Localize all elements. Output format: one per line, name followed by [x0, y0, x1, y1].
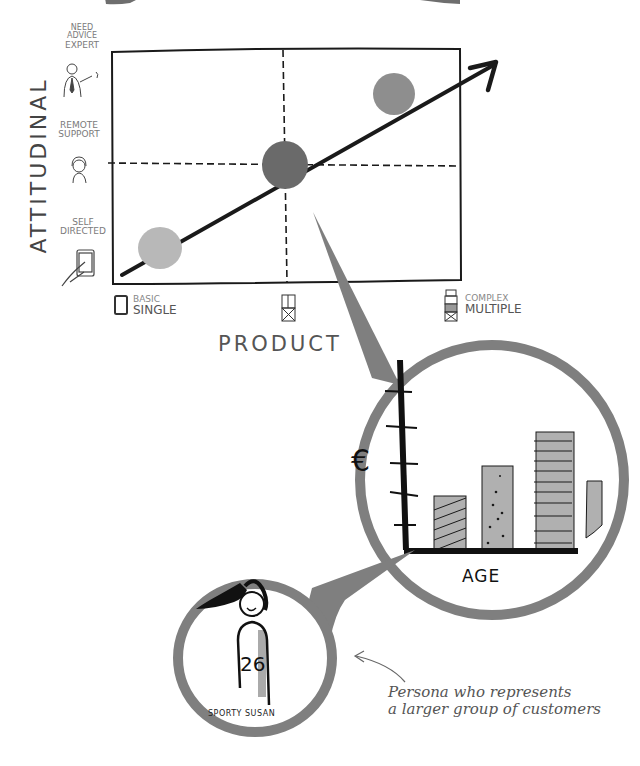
x-category-basic-line2: SINGLE: [133, 304, 177, 317]
bar-dotted: [482, 466, 513, 551]
age-axis-label: AGE: [462, 566, 500, 586]
x-category-complex-line2: MULTIPLE: [465, 303, 522, 316]
y-level-expert-label: NEED ADVICE EXPERT: [60, 24, 104, 50]
y-level-self-label: SELF DIRECTED: [58, 218, 108, 237]
persona-name: SPORTY SUSAN: [208, 709, 275, 718]
expert-person-icon: [64, 64, 98, 97]
bar-hatched: [434, 496, 466, 551]
bar-striped: [534, 432, 574, 551]
segment-blob-mid: [262, 141, 308, 189]
top-banner-right-fragment: [420, 0, 460, 4]
stacked-boxes-icon: [445, 290, 457, 321]
diagram-canvas: [0, 0, 640, 766]
top-banner-left-fragment: [105, 0, 140, 4]
double-box-icon: [282, 295, 295, 321]
caption-line1: Persona who represents: [388, 684, 601, 701]
y-level-remote-line2: SUPPORT: [54, 130, 104, 139]
caption-arrow-line: [356, 656, 405, 682]
single-box-icon: [115, 296, 127, 314]
x-category-basic: BASIC SINGLE: [133, 295, 177, 317]
headset-person-icon: [72, 157, 86, 183]
x-axis-title: PRODUCT: [218, 332, 342, 356]
persona-jersey-number: 26: [240, 652, 265, 676]
y-axis-title: ATTITUDINAL: [18, 70, 58, 260]
persona-caption: Persona who represents a larger group of…: [388, 684, 601, 717]
euro-axis-label: €: [351, 443, 370, 478]
y-level-self-line2: DIRECTED: [58, 227, 108, 236]
x-category-complex: COMPLEX MULTIPLE: [465, 294, 522, 316]
y-level-expert-line3: EXPERT: [60, 41, 104, 50]
segment-blob-low: [138, 227, 182, 269]
y-axis-title-text: ATTITUDINAL: [26, 77, 51, 253]
segment-blob-high: [373, 73, 415, 115]
tablet-hand-icon: [62, 250, 94, 286]
persona-head: [240, 592, 264, 616]
caption-line2: a larger group of customers: [388, 701, 601, 718]
quadrant-chart: [108, 48, 496, 284]
y-level-remote-label: REMOTE SUPPORT: [54, 121, 104, 140]
magnifier-pointer-top: [313, 212, 400, 385]
